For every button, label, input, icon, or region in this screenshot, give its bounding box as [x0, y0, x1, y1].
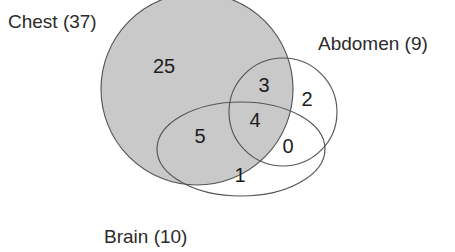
- region-count-abdomen-brain: 0: [282, 135, 293, 157]
- region-count-chest-brain: 5: [194, 125, 205, 147]
- region-count-chest-abdomen-brain: 4: [249, 109, 260, 131]
- venn-diagram-canvas: Chest (37) Abdomen (9) Brain (10) 25 3 2…: [0, 0, 455, 252]
- chest-set-label: Chest (37): [8, 11, 97, 32]
- brain-set-label: Brain (10): [104, 226, 187, 247]
- region-count-chest-abdomen: 3: [258, 74, 269, 96]
- region-count-chest-only: 25: [153, 55, 175, 77]
- region-count-brain-only: 1: [234, 164, 245, 186]
- region-count-abdomen-only: 2: [301, 88, 312, 110]
- venn-diagram-figure: Chest (37) Abdomen (9) Brain (10) 25 3 2…: [0, 0, 455, 252]
- abdomen-set-label: Abdomen (9): [318, 33, 428, 54]
